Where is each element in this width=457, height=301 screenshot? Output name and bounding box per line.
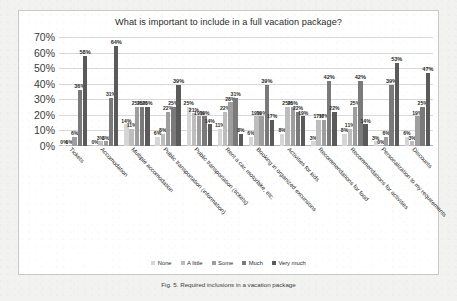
- bar: 28%: [228, 102, 232, 146]
- bar: 42%: [358, 81, 362, 146]
- bar: 6%: [384, 137, 388, 146]
- bar-value-label: 31%: [231, 92, 241, 97]
- bar-fill: [135, 107, 139, 146]
- page-background: What is important to include in a full v…: [0, 0, 457, 301]
- bar-fill: [176, 85, 180, 146]
- bar: 47%: [426, 73, 430, 146]
- legend-item[interactable]: Very much: [272, 260, 306, 266]
- bar: 0%: [93, 145, 97, 146]
- bar-group: 6%19%19%39%17%: [246, 37, 277, 146]
- bar-value-label: 58%: [79, 50, 90, 56]
- x-axis-label: Tickets: [68, 147, 85, 165]
- bar-fill: [218, 129, 222, 146]
- x-axis-label: Public transportation (information): [161, 147, 226, 216]
- bar: 3%: [410, 141, 414, 146]
- bar-fill: [420, 107, 424, 146]
- x-axis-label: Recommendations for activities: [348, 147, 408, 211]
- bar-group: 3%17%17%42%22%: [308, 37, 339, 146]
- bar: 8%: [280, 134, 284, 146]
- bar: 25%: [420, 107, 424, 146]
- x-axis-label: Activities for kids: [286, 147, 320, 183]
- legend-item[interactable]: None: [151, 260, 171, 266]
- bar: 25%: [291, 107, 295, 146]
- bar-value-label: 19%: [298, 111, 308, 116]
- bar-group: 6%8%22%25%39%: [153, 37, 184, 146]
- x-axis-label: Discounts: [411, 147, 433, 170]
- bar-value-label: 42%: [324, 75, 335, 81]
- bar-fill: [187, 107, 191, 146]
- bar-value-label: 22%: [329, 106, 339, 111]
- bar-value-label: 14%: [360, 119, 370, 124]
- bar-group: 3%0%6%39%53%: [371, 37, 402, 146]
- bar: 11%: [129, 129, 133, 146]
- bar-fill: [296, 112, 300, 146]
- bar: 31%: [233, 98, 237, 146]
- bar: 22%: [296, 112, 300, 146]
- bar-value-label: 47%: [422, 67, 433, 73]
- bar: 14%: [208, 124, 212, 146]
- bar: 22%: [223, 112, 227, 146]
- bar-fill: [93, 145, 97, 146]
- bar-fill: [192, 113, 196, 146]
- bar-fill: [316, 120, 320, 146]
- bar: 42%: [327, 81, 331, 146]
- bar: 19%: [197, 116, 201, 146]
- x-axis-label: Public transportation (tickets): [192, 147, 248, 207]
- bar-fill: [249, 137, 253, 146]
- bar: 31%: [109, 98, 113, 146]
- legend-item[interactable]: A little: [181, 260, 203, 266]
- bar: 64%: [114, 46, 118, 146]
- bar: 22%: [166, 112, 170, 146]
- legend-item[interactable]: Much: [242, 260, 263, 266]
- bar-fill: [161, 134, 165, 146]
- bar: 19%: [254, 116, 258, 146]
- bar-fill: [285, 107, 289, 146]
- legend-item[interactable]: Some: [212, 260, 234, 266]
- y-axis-tick: 30%: [34, 93, 55, 105]
- bar: 8%: [342, 134, 346, 146]
- legend-swatch: [212, 261, 216, 265]
- legend-swatch: [242, 261, 246, 265]
- y-axis-tick: 0%: [40, 140, 55, 152]
- bar-fill: [140, 107, 144, 146]
- bar-fill: [322, 120, 326, 146]
- bar-value-label: 17%: [267, 114, 277, 119]
- bar-fill: [384, 137, 388, 146]
- bar-group: 0%0%6%36%58%: [59, 37, 90, 146]
- bar: 25%: [171, 107, 175, 146]
- bar-group: 25%21%19%19%14%: [184, 37, 215, 146]
- bar: 39%: [389, 85, 393, 146]
- bar-fill: [78, 90, 82, 146]
- bar-group: 8%11%25%42%14%: [340, 37, 371, 146]
- bar-fill: [291, 107, 295, 146]
- bar-value-label: 39%: [261, 79, 272, 85]
- y-axis-tick: 10%: [34, 124, 55, 136]
- legend-label: Very much: [278, 260, 305, 266]
- bar-fill: [228, 102, 232, 146]
- bar-fill: [379, 145, 383, 146]
- bar: 39%: [176, 85, 180, 146]
- bar: 22%: [332, 112, 336, 146]
- x-axis-label: Booking in organized excursions: [255, 147, 317, 213]
- bar-group: 14%11%25%25%25%: [121, 37, 152, 146]
- bar-fill: [223, 112, 227, 146]
- bar-fill: [114, 46, 118, 146]
- legend-label: None: [158, 260, 172, 266]
- bar-fill: [348, 129, 352, 146]
- bar: 25%: [285, 107, 289, 146]
- bar-fill: [327, 81, 331, 146]
- chart-title: What is important to include in a full v…: [19, 17, 438, 27]
- bar-fill: [389, 85, 393, 146]
- bar-fill: [208, 124, 212, 146]
- bar-value-label: 8%: [237, 128, 244, 133]
- bar: 19%: [301, 116, 305, 146]
- bar-value-label: 14%: [205, 119, 215, 124]
- bar-value-label: 39%: [173, 79, 184, 85]
- y-axis-tick: 70%: [34, 31, 55, 43]
- bar-fill: [363, 124, 367, 146]
- bar-group: 11%22%28%31%8%: [215, 37, 246, 146]
- bar-group: 0%3%3%31%64%: [90, 37, 121, 146]
- bar-value-label: 42%: [355, 75, 366, 81]
- bar: 8%: [239, 134, 243, 146]
- chart-legend: NoneA littleSomeMuchVery much: [19, 260, 438, 266]
